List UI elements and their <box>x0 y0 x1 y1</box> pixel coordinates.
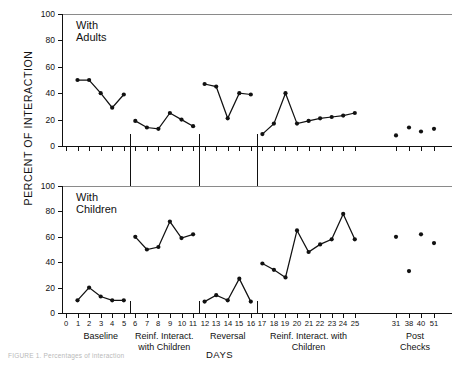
x-axis-label: DAYS <box>206 349 233 360</box>
phase-divider-span <box>130 146 131 186</box>
data-point <box>99 294 103 298</box>
data-point <box>214 293 218 297</box>
data-point <box>237 277 241 281</box>
data-point <box>419 232 423 236</box>
data-point <box>156 245 160 249</box>
phase-label-reinf-interact-2: Reinf. Interact. withChildren <box>249 331 369 353</box>
series-line <box>205 279 251 302</box>
x-tick-label: 51 <box>426 319 442 328</box>
data-point <box>295 228 299 232</box>
data-point <box>191 232 195 236</box>
data-point <box>353 237 357 241</box>
data-point <box>283 275 287 279</box>
data-point <box>179 236 183 240</box>
series-line <box>262 214 354 278</box>
data-series-group <box>0 0 465 368</box>
data-point <box>226 298 230 302</box>
data-point <box>203 300 207 304</box>
data-point <box>318 242 322 246</box>
data-point <box>75 298 79 302</box>
data-point <box>168 220 172 224</box>
data-point <box>122 298 126 302</box>
data-point <box>407 269 411 273</box>
data-point <box>145 247 149 251</box>
phase-divider-span <box>257 146 258 186</box>
figure-caption: FIGURE 1. Percentages of interaction <box>8 352 124 359</box>
data-point <box>249 300 253 304</box>
series-line <box>135 222 193 250</box>
data-point <box>110 298 114 302</box>
data-point <box>133 235 137 239</box>
figure-chart-percent-of-interaction: PERCENT OF INTERACTION 020406080100With … <box>0 0 465 368</box>
data-point <box>432 241 436 245</box>
phase-divider-span <box>199 146 200 186</box>
data-point <box>260 261 264 265</box>
data-point <box>341 212 345 216</box>
data-point <box>272 268 276 272</box>
x-tick-label: 25 <box>347 319 363 328</box>
phase-label-post-checks: PostChecks <box>355 331 465 353</box>
data-point <box>87 286 91 290</box>
data-point <box>394 235 398 239</box>
data-point <box>330 237 334 241</box>
data-point <box>307 250 311 254</box>
